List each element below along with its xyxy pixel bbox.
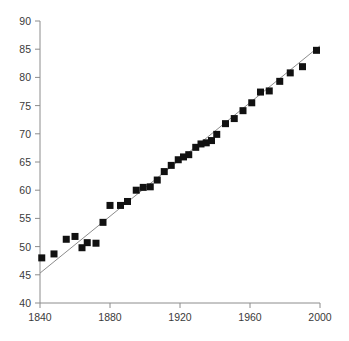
x-axis-tick-label: 1920 xyxy=(168,311,192,323)
data-point-marker xyxy=(168,162,175,169)
data-point-marker xyxy=(51,250,58,257)
data-point-marker xyxy=(257,89,264,96)
data-point-marker xyxy=(313,47,320,54)
y-axis-tick-label: 80 xyxy=(19,71,31,83)
y-axis-tick-label: 65 xyxy=(19,156,31,168)
y-axis-tick-label: 40 xyxy=(19,297,31,309)
x-axis-tick-label: 1960 xyxy=(238,311,262,323)
y-axis-tick-label: 90 xyxy=(19,15,31,27)
data-point-marker xyxy=(266,87,273,94)
data-point-marker xyxy=(276,78,283,85)
data-point-marker xyxy=(240,107,247,114)
data-point-marker xyxy=(107,202,114,209)
x-axis-tick-label: 1880 xyxy=(98,311,122,323)
data-points xyxy=(38,47,320,262)
data-point-marker xyxy=(38,254,45,261)
data-point-marker xyxy=(213,131,220,138)
data-point-marker xyxy=(154,177,161,184)
data-point-marker xyxy=(63,236,70,243)
data-point-marker xyxy=(161,168,168,175)
data-point-marker xyxy=(299,63,306,70)
y-axis-tick-label: 55 xyxy=(19,212,31,224)
data-point-marker xyxy=(248,99,255,106)
data-point-marker xyxy=(84,239,91,246)
y-axis: 4045505560657075808590 xyxy=(19,15,40,309)
data-point-marker xyxy=(208,137,215,144)
y-axis-tick-label: 45 xyxy=(19,269,31,281)
y-axis-tick-label: 50 xyxy=(19,241,31,253)
x-axis: 18401880192019602000 xyxy=(28,303,332,323)
y-axis-tick-label: 75 xyxy=(19,100,31,112)
data-point-marker xyxy=(117,202,124,209)
y-axis-tick-label: 70 xyxy=(19,128,31,140)
chart-canvas: 4045505560657075808590 18401880192019602… xyxy=(0,0,349,341)
y-axis-tick-label: 85 xyxy=(19,43,31,55)
data-point-marker xyxy=(231,115,238,122)
x-axis-tick-label: 2000 xyxy=(308,311,332,323)
y-axis-tick-label: 60 xyxy=(19,184,31,196)
scatter-chart: 4045505560657075808590 18401880192019602… xyxy=(0,0,349,341)
data-point-marker xyxy=(133,187,140,194)
data-point-marker xyxy=(147,183,154,190)
data-point-marker xyxy=(124,198,131,205)
data-point-marker xyxy=(72,233,79,240)
data-point-marker xyxy=(222,120,229,127)
data-point-marker xyxy=(287,69,294,76)
x-axis-tick-label: 1840 xyxy=(28,311,52,323)
data-point-marker xyxy=(93,240,100,247)
data-point-marker xyxy=(100,219,107,226)
data-point-marker xyxy=(140,184,147,191)
data-point-marker xyxy=(185,151,192,158)
